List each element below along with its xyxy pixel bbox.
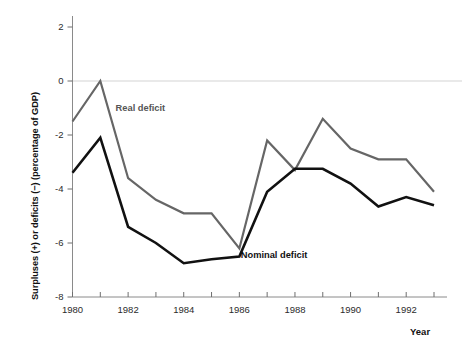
y-axis-tick-label: 0	[58, 75, 63, 86]
x-axis-tick-label: 1988	[284, 304, 305, 315]
series-label-real-deficit: Real deficit	[116, 103, 166, 113]
y-axis-tick-label: 2	[58, 21, 63, 32]
x-axis-tick-label: 1980	[62, 304, 83, 315]
x-axis-title: Year	[410, 326, 430, 337]
y-axis-tick-label: -8	[55, 291, 63, 302]
deficit-line-chart: 20-2-4-6-81980198219841986198819901992Re…	[0, 0, 464, 349]
x-axis-tick-label: 1986	[229, 304, 250, 315]
y-axis-title: Surpluses (+) or deficits (−) (percentag…	[30, 0, 40, 300]
series-line-nominal-deficit	[73, 138, 435, 264]
chart-container: 20-2-4-6-81980198219841986198819901992Re…	[0, 0, 464, 349]
series-label-nominal-deficit: Nominal deficit	[241, 250, 308, 260]
x-axis-tick-label: 1992	[396, 304, 417, 315]
y-axis-tick-label: -4	[55, 183, 63, 194]
x-axis-tick-label: 1984	[173, 304, 194, 315]
y-axis-tick-label: -6	[55, 237, 63, 248]
x-axis-tick-label: 1982	[118, 304, 139, 315]
x-axis-tick-label: 1990	[340, 304, 361, 315]
y-axis-tick-label: -2	[55, 129, 63, 140]
